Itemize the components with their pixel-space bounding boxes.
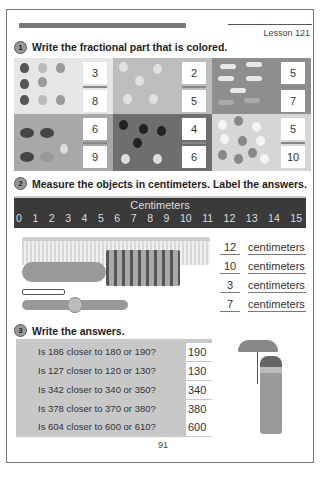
denominator-box[interactable]: 10: [281, 146, 305, 168]
lemon-icon: [238, 136, 247, 146]
numerator-box[interactable]: 4: [182, 118, 206, 140]
peach-icon: [135, 76, 144, 86]
measurement-unit[interactable]: centimeters: [248, 278, 306, 293]
measurement-value[interactable]: 12: [220, 240, 240, 255]
fraction: 2 5: [182, 62, 206, 112]
strawberry-icon: [38, 77, 47, 87]
rounding-questions: Is 186 closer to 180 or 190? 190 Is 127 …: [16, 339, 212, 437]
cherry-icon: [20, 152, 34, 162]
answer-box[interactable]: 190: [186, 343, 214, 361]
numerator-box[interactable]: 2: [182, 62, 206, 84]
page-number: 91: [0, 440, 326, 450]
answer-box[interactable]: 380: [186, 400, 214, 418]
measurement-value[interactable]: 10: [220, 259, 240, 274]
numerator-box[interactable]: 5: [281, 62, 305, 84]
ruler-tick: 4: [82, 212, 88, 224]
ruler-tick: 15: [290, 212, 302, 224]
ruler-tick: 10: [180, 212, 192, 224]
banana-icon: [246, 62, 262, 67]
plum-icon: [119, 120, 128, 130]
banana-icon: [230, 88, 246, 93]
lemon-icon: [234, 154, 243, 164]
ruler-tick: 11: [202, 212, 213, 224]
parasol-handle: [257, 352, 258, 384]
answer-box[interactable]: 600: [186, 418, 214, 436]
header-rule: [228, 24, 312, 25]
banana-icon: [246, 76, 262, 81]
fraction-bar: [281, 86, 305, 88]
ruler-title: Centimeters: [14, 199, 306, 211]
denominator-box[interactable]: 8: [83, 90, 107, 112]
lemon-icon: [218, 150, 227, 160]
fraction-bar: [83, 142, 107, 144]
plum-icon: [139, 124, 148, 134]
plum-icon: [121, 154, 130, 164]
fraction: 5 7: [281, 62, 305, 112]
fraction-cell-plums: 4 6: [113, 114, 212, 171]
peach-icon: [153, 64, 162, 74]
ruler-tick: 13: [246, 212, 258, 224]
section3-title: Write the answers.: [32, 325, 125, 337]
peach-icon: [119, 62, 128, 72]
ruler-tick: 3: [65, 212, 71, 224]
cherry-icon: [20, 128, 34, 138]
measurement-unit[interactable]: centimeters: [248, 297, 306, 312]
strawberry-icon: [20, 95, 29, 105]
fraction-cell-lemons: 5 10: [212, 114, 311, 171]
ruler-tick-labels: 0 1 2 3 4 5 6 7 8 9 10 11 12 13 14 15: [16, 212, 302, 224]
lesson-label: Lesson 121: [263, 28, 310, 38]
peach-icon: [149, 94, 158, 104]
fraction: 6 9: [83, 118, 107, 168]
flower-ornament: [67, 297, 83, 313]
ruler-tick: 14: [268, 212, 280, 224]
numerator-box[interactable]: 6: [83, 118, 107, 140]
ruler-tick: 5: [98, 212, 104, 224]
numerator-box[interactable]: 5: [281, 118, 305, 140]
fraction-bar: [83, 86, 107, 88]
lemon-icon: [256, 136, 265, 146]
ruler-tick: 0: [16, 212, 22, 224]
ruler-tick: 12: [224, 212, 236, 224]
denominator-box[interactable]: 6: [182, 146, 206, 168]
ruler-tick: 1: [32, 212, 38, 224]
plum-icon: [133, 138, 142, 148]
ruler-tick: 6: [114, 212, 120, 224]
measurement-unit[interactable]: centimeters: [248, 259, 306, 274]
strawberry-icon: [20, 79, 29, 89]
fraction-bar: [182, 142, 206, 144]
fraction-bar: [281, 142, 305, 144]
answer-box[interactable]: 130: [186, 362, 214, 380]
kimono-figure: [260, 356, 282, 434]
strawberry-icon: [56, 95, 65, 105]
question-text: Is 378 closer to 370 or 380?: [38, 403, 156, 414]
fraction-cell-cherries: 6 9: [14, 114, 113, 171]
ruler-tick: 8: [147, 212, 153, 224]
question-text: Is 186 closer to 180 or 190?: [38, 346, 156, 357]
question-text: Is 342 closer to 340 or 350?: [38, 384, 156, 395]
banana-icon: [220, 64, 236, 69]
cherry-icon: [40, 128, 54, 138]
ruler-tick: 9: [164, 212, 170, 224]
question-number-3: 3: [14, 324, 27, 337]
section1-title: Write the fractional part that is colore…: [32, 41, 227, 53]
denominator-box[interactable]: 7: [281, 90, 305, 112]
lemon-icon: [218, 120, 227, 130]
lemon-icon: [260, 154, 269, 164]
section2-title: Measure the objects in centimeters. Labe…: [32, 178, 307, 190]
fraction-grid: 3 8 2 5 5 7: [14, 58, 311, 171]
cherry-icon: [60, 144, 68, 154]
measurement-value[interactable]: 3: [220, 278, 240, 293]
numerator-box[interactable]: 3: [83, 62, 107, 84]
fraction: 5 10: [281, 118, 305, 168]
fraction: 4 6: [182, 118, 206, 168]
answer-box[interactable]: 340: [186, 381, 214, 399]
measurement-unit[interactable]: centimeters: [248, 240, 306, 255]
denominator-box[interactable]: 5: [182, 90, 206, 112]
lemon-icon: [234, 116, 243, 126]
denominator-box[interactable]: 9: [83, 146, 107, 168]
lemon-icon: [248, 148, 257, 158]
strawberry-icon: [38, 95, 47, 105]
ruler-tick: 7: [131, 212, 137, 224]
question-text: Is 604 closer to 600 or 610?: [38, 421, 156, 432]
measurement-value[interactable]: 7: [220, 297, 240, 312]
